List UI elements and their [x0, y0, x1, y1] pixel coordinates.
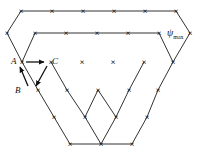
lattice-node-marker: × — [19, 57, 24, 67]
lattice-node-marker: × — [82, 112, 87, 122]
lattice-node-marker: × — [79, 57, 84, 67]
lattice-node-marker: × — [67, 139, 72, 149]
lattice-node-marker: × — [18, 6, 23, 16]
lattice-node-marker: × — [80, 6, 85, 16]
lattice-node-marker: × — [51, 112, 56, 122]
lattice-node-marker: × — [111, 6, 116, 16]
lattice-svg: ××××××××××××××××××××××××××××××× — [0, 0, 198, 164]
lattice-node-marker: × — [113, 112, 118, 122]
lattice-node-marker: × — [141, 57, 146, 67]
lattice-node-marker: × — [32, 28, 37, 38]
lattice-node-marker: × — [35, 85, 40, 95]
lattice-node-marker: × — [95, 85, 100, 95]
lattice-node-marker: × — [142, 6, 147, 16]
lattice-node-marker: × — [64, 85, 69, 95]
lattice-node-marker: × — [173, 6, 178, 16]
lattice-node-marker: × — [94, 28, 99, 38]
lattice-node-marker: × — [144, 112, 149, 122]
lattice-node-marker: × — [98, 139, 103, 149]
label-b: B — [15, 86, 21, 95]
lattice-node-marker: × — [155, 85, 160, 95]
label-a: A — [11, 57, 17, 66]
lattice-node-marker: × — [4, 28, 9, 38]
lattice-node-marker: × — [170, 57, 175, 67]
lattice-node-marker: × — [129, 139, 134, 149]
triangular-lattice-figure: ××××××××××××××××××××××××××××××× A B C ψm… — [0, 0, 198, 164]
lattice-node-marker: × — [187, 28, 192, 38]
arrow-c-to-b — [36, 66, 47, 86]
lattice-node-marker: × — [125, 28, 130, 38]
lattice-node-marker: × — [110, 57, 115, 67]
lattice-node-marker: × — [49, 6, 54, 16]
lattice-node-marker: × — [63, 28, 68, 38]
label-c: C — [52, 57, 58, 66]
lattice-node-marker: × — [156, 28, 161, 38]
label-psi-max: ψmax — [167, 28, 184, 40]
lattice-node-marker: × — [126, 85, 131, 95]
psi-subscript: max — [173, 34, 183, 40]
